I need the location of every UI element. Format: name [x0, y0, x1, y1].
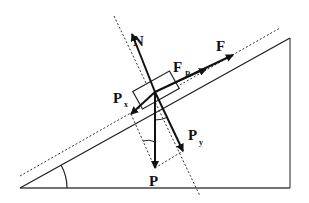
label-perpendicular-subscript: y — [199, 138, 203, 147]
label-applied-force: F — [216, 38, 225, 54]
weight-angle-arc-bottom — [143, 140, 155, 142]
label-normal-force: N — [133, 33, 144, 49]
angle-arc — [61, 165, 67, 188]
label-friction-subscript: R — [185, 70, 191, 79]
incline-force-diagram: N F F R P x P y P — [0, 0, 309, 203]
label-parallel-subscript: x — [124, 100, 128, 109]
label-friction-force: F — [173, 59, 182, 75]
label-weight: P — [149, 173, 158, 189]
perpendicular-component-arrow — [155, 92, 183, 151]
label-perpendicular-component: P — [188, 127, 197, 143]
label-parallel-component: P — [113, 90, 122, 106]
